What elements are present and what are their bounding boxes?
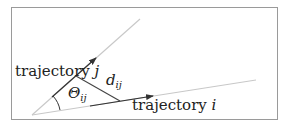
- angle-label: Θij: [68, 86, 87, 101]
- distance-subscript: ij: [116, 79, 122, 90]
- distance-label: dij: [106, 73, 122, 88]
- trajectory-j-text: trajectory: [15, 62, 90, 80]
- angle-subscript: ij: [80, 92, 86, 103]
- angle-symbol: Θ: [68, 84, 80, 102]
- angle-arc: [53, 96, 60, 110]
- distance-symbol: d: [106, 71, 116, 89]
- trajectory-i-var: i: [212, 96, 217, 114]
- trajectory-i-label: trajectory i: [132, 98, 216, 113]
- trajectory-j-var: j: [95, 62, 100, 80]
- trajectory-j-label: trajectory j: [15, 64, 99, 79]
- trajectory-i-text: trajectory: [132, 96, 207, 114]
